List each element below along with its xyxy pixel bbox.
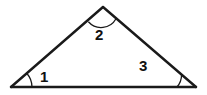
triangle-drawing <box>0 0 207 95</box>
angle-3-arc <box>177 75 182 87</box>
angle-1-arc <box>27 74 32 87</box>
left-side <box>11 7 103 87</box>
angle-label-3: 3 <box>139 58 147 73</box>
triangle-figure: 1 2 3 <box>0 0 207 95</box>
angle-label-2: 2 <box>95 27 103 42</box>
angle-label-1: 1 <box>40 69 48 84</box>
